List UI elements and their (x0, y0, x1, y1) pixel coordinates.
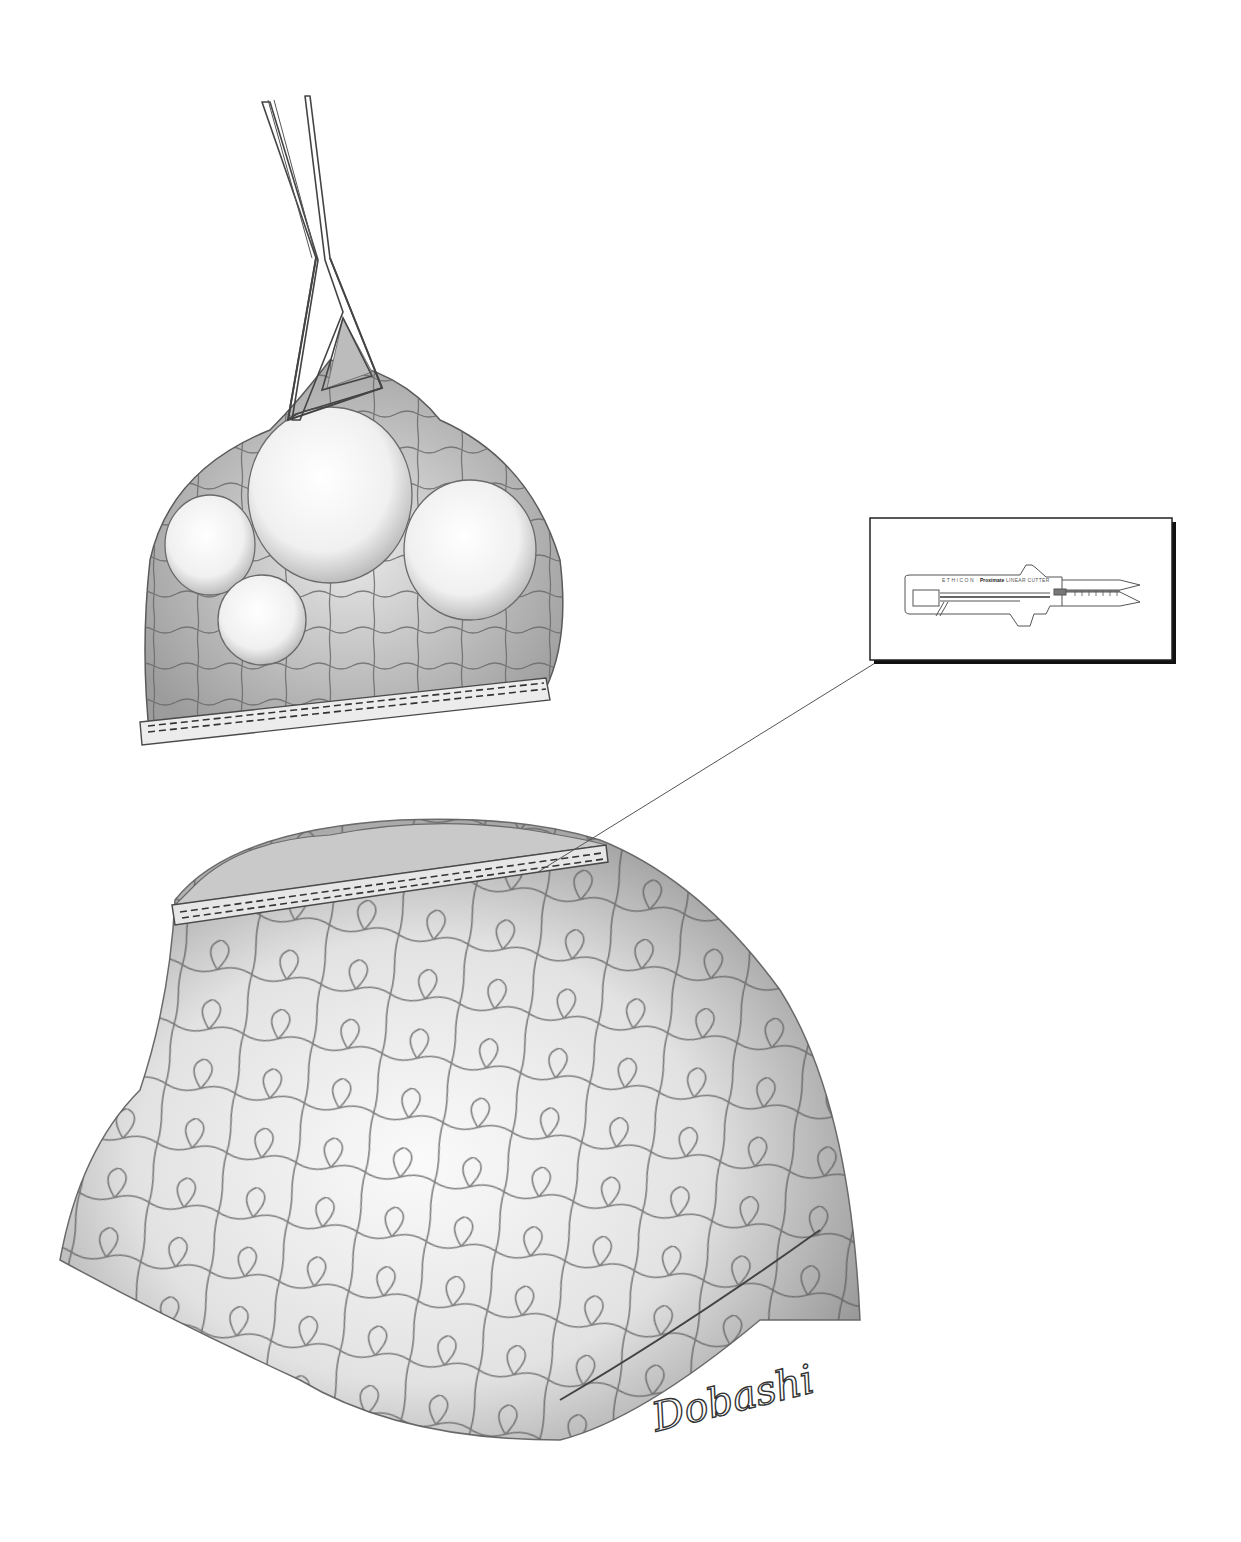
bulla-large-right (404, 480, 536, 620)
bulla-large-center (248, 407, 412, 583)
inset-product: LINEAR CUTTER (1006, 577, 1050, 583)
stapler-inset: ETHICON Proximate LINEAR CUTTER (870, 518, 1176, 664)
surgical-illustration: ETHICON Proximate LINEAR CUTTER Dobashi (0, 0, 1241, 1542)
inset-leader-line (538, 660, 880, 872)
lung-remnant (40, 800, 900, 1460)
inset-logo: Proximate (980, 577, 1004, 583)
inset-brand: ETHICON (942, 577, 975, 583)
bulla-small-bottom (218, 575, 306, 665)
resected-specimen (130, 350, 580, 750)
lung-lobule-texture (40, 800, 900, 1460)
